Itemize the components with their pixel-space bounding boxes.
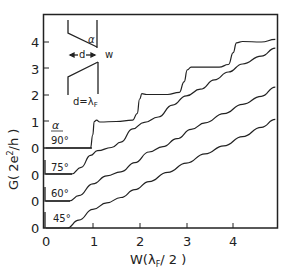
curve-45deg [46, 119, 275, 228]
svg-text:4: 4 [31, 35, 39, 50]
svg-text:0: 0 [31, 221, 39, 236]
conductance-chart: 4 3 2 1 0 1 2 3 4 W(λF/ 2 ) G(2e2/h ) 0 … [0, 0, 292, 275]
svg-text:3: 3 [31, 62, 39, 77]
svg-text:d=λF: d=λF [73, 96, 98, 109]
curve-75deg [46, 48, 275, 174]
curves [46, 39, 275, 228]
svg-text:W(λF/ 2 ): W(λF/ 2 ) [130, 252, 186, 269]
svg-text:0: 0 [31, 168, 39, 183]
svg-text:1: 1 [90, 234, 98, 249]
svg-text:G(2e2/h ): G(2e2/h ) [6, 129, 21, 190]
svg-text:2: 2 [31, 88, 39, 103]
svg-text:d: d [79, 49, 85, 60]
y-tick-labels: 4 3 2 1 [31, 35, 39, 130]
angle-labels: α 90° 75° 60° 45° [51, 119, 71, 224]
svg-text:α: α [88, 34, 95, 45]
x-axis-label: W(λF/ 2 ) [130, 252, 186, 269]
svg-text:2: 2 [136, 234, 144, 249]
svg-text:3: 3 [183, 234, 191, 249]
svg-text:60°: 60° [51, 188, 69, 199]
svg-text:1: 1 [31, 115, 39, 130]
svg-text:w: w [105, 49, 113, 60]
svg-text:0: 0 [31, 141, 39, 156]
panel-zero-labels: 0 0 0 0 [31, 141, 39, 236]
x-tick-labels: 0 1 2 3 4 [42, 234, 237, 249]
y-ticks [44, 42, 49, 121]
svg-text:α: α [52, 119, 60, 132]
svg-text:75°: 75° [51, 162, 69, 173]
svg-text:0: 0 [31, 194, 39, 209]
svg-text:4: 4 [229, 234, 237, 249]
svg-text:0: 0 [42, 234, 50, 249]
svg-text:45°: 45° [53, 213, 71, 224]
y-axis-label: G(2e2/h ) [6, 129, 21, 190]
svg-text:90°: 90° [51, 135, 69, 146]
inset-lower-wall [68, 62, 98, 95]
